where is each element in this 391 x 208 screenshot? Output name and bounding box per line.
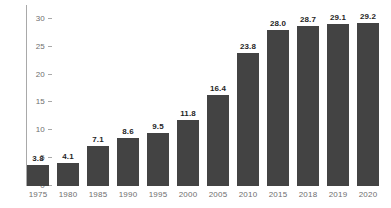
x-axis-labels: 1975198019851990199520002005201020152018… — [27, 190, 391, 204]
bar-slot: 29.2 — [357, 5, 387, 186]
bar[interactable] — [267, 30, 289, 186]
bar-value-label: 28.0 — [267, 19, 289, 28]
bar[interactable] — [357, 23, 379, 186]
bar[interactable] — [297, 26, 319, 186]
x-axis-label: 1990 — [113, 190, 143, 199]
x-axis-label: 2019 — [323, 190, 353, 199]
bar-value-label: 16.4 — [207, 84, 229, 93]
bar[interactable] — [27, 165, 49, 186]
bar-slot: 28.0 — [267, 5, 297, 186]
bar-value-label: 28.7 — [297, 15, 319, 24]
bar-chart: 051015202530 3.84.17.18.69.511.816.423.8… — [0, 0, 391, 208]
bar[interactable] — [117, 138, 139, 186]
x-axis-label: 2015 — [263, 190, 293, 199]
bar-value-label: 29.1 — [327, 13, 349, 22]
bar[interactable] — [237, 53, 259, 186]
bar[interactable] — [177, 120, 199, 186]
bar-slot: 7.1 — [87, 5, 117, 186]
bar-slot: 3.8 — [27, 5, 57, 186]
bar-value-label: 11.8 — [177, 109, 199, 118]
bar[interactable] — [207, 95, 229, 186]
bar-slot: 8.6 — [117, 5, 147, 186]
bar-slot: 29.1 — [327, 5, 357, 186]
bar[interactable] — [57, 163, 79, 186]
bar-slot: 11.8 — [177, 5, 207, 186]
bar-slot: 28.7 — [297, 5, 327, 186]
bar-value-label: 4.1 — [57, 152, 79, 161]
x-axis-label: 2005 — [203, 190, 233, 199]
x-axis-label: 2010 — [233, 190, 263, 199]
bar-slot: 16.4 — [207, 5, 237, 186]
bar-value-label: 3.8 — [27, 154, 49, 163]
x-axis-label: 1980 — [53, 190, 83, 199]
x-axis-label: 2018 — [293, 190, 323, 199]
x-axis-label: 2020 — [353, 190, 383, 199]
x-axis-label: 1975 — [23, 190, 53, 199]
x-axis-label: 2000 — [173, 190, 203, 199]
bar-value-label: 7.1 — [87, 135, 109, 144]
x-axis-label: 1985 — [83, 190, 113, 199]
bar-slot: 9.5 — [147, 5, 177, 186]
bar-series: 3.84.17.18.69.511.816.423.828.028.729.12… — [27, 5, 391, 186]
x-axis-label: 1995 — [143, 190, 173, 199]
bar[interactable] — [327, 24, 349, 186]
bar-slot: 4.1 — [57, 5, 87, 186]
bar[interactable] — [87, 146, 109, 186]
bar-value-label: 8.6 — [117, 127, 139, 136]
bar-value-label: 9.5 — [147, 122, 169, 131]
bar[interactable] — [147, 133, 169, 186]
bar-slot: 23.8 — [237, 5, 267, 186]
bar-value-label: 29.2 — [357, 12, 379, 21]
bar-value-label: 23.8 — [237, 42, 259, 51]
